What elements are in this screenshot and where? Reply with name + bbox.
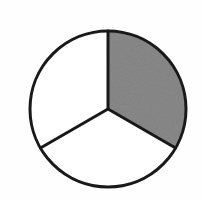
figure-canvas: Circle divided into three equal sectors	[0, 0, 202, 200]
pie-diagram	[0, 0, 202, 200]
